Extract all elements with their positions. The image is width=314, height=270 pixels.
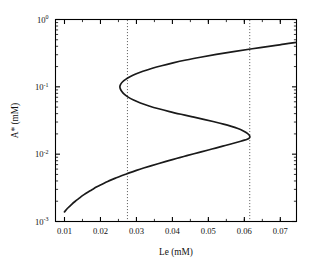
x-tick-label: 0.07 (273, 226, 289, 236)
x-axis-title: Le (mM) (159, 247, 193, 258)
x-tick-label: 0.03 (129, 226, 144, 236)
bifurcation-chart-figure: 0.010.020.030.040.050.060.0710-310-210-1… (0, 0, 314, 270)
x-tick-label: 0.04 (165, 226, 181, 236)
x-tick-label: 0.02 (93, 226, 108, 236)
plot-frame (56, 20, 297, 222)
x-tick-label: 0.06 (237, 226, 253, 236)
steady-state-curve (64, 42, 296, 212)
y-tick-label: 10-2 (35, 149, 49, 159)
y-tick-label: 100 (37, 14, 49, 24)
y-tick-label: 10-3 (35, 216, 49, 226)
x-tick-label: 0.05 (201, 226, 216, 236)
chart-canvas: 0.010.020.030.040.050.060.0710-310-210-1… (0, 0, 314, 270)
y-tick-label: 10-1 (35, 82, 49, 92)
y-axis-title: A* (mM) (10, 103, 21, 138)
x-tick-label: 0.01 (57, 226, 72, 236)
